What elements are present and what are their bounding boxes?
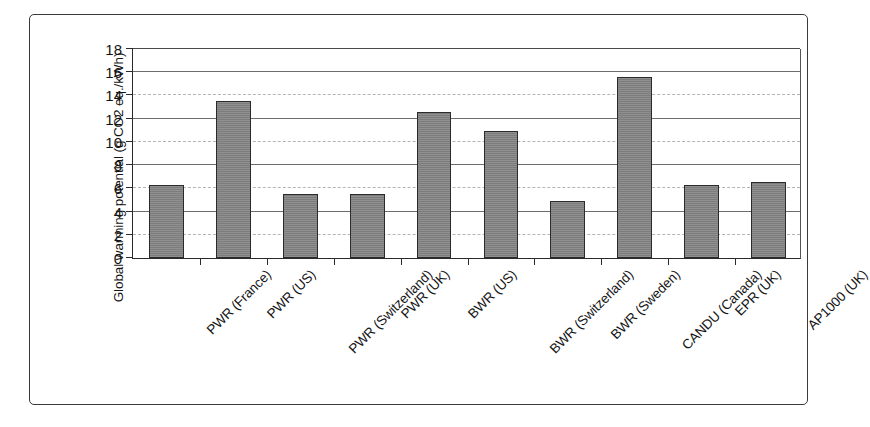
bar: [751, 182, 786, 258]
bar: [149, 185, 184, 259]
y-tick-label-10: 10: [105, 133, 122, 150]
y-tick-label-14: 14: [105, 87, 122, 104]
y-tick-12: [126, 118, 133, 119]
x-axis-labels: PWR (France)PWR (US)PWR (Switzerland)PWR…: [132, 259, 801, 409]
x-axis-label: BWR (Switzerland): [547, 267, 636, 356]
y-tick-label-18: 18: [105, 41, 122, 58]
y-tick-0: [126, 257, 133, 258]
bar-series: [133, 49, 800, 258]
bar: [617, 77, 652, 258]
bar: [283, 194, 318, 258]
y-tick-4: [126, 211, 133, 212]
y-tick-18: [126, 48, 133, 49]
bar: [216, 101, 251, 259]
y-tick-label-4: 4: [114, 203, 122, 220]
y-tick-label-2: 2: [114, 226, 122, 243]
y-tick-14: [126, 94, 133, 95]
y-tick-label-0: 0: [114, 250, 122, 267]
y-tick-label-16: 16: [105, 64, 122, 81]
x-axis-label: AP1000 (UK): [804, 267, 870, 333]
bar: [684, 185, 719, 259]
y-tick-label-6: 6: [114, 180, 122, 197]
bar: [484, 131, 519, 258]
x-axis-label: BWR (US): [465, 267, 519, 321]
y-tick-16: [126, 71, 133, 72]
x-axis-label: PWR (Switzerland): [346, 267, 435, 356]
figure-frame: Global warming potential (g CO2 eq./kWh)…: [29, 14, 808, 405]
bar: [417, 112, 452, 258]
y-tick-8: [126, 164, 133, 165]
y-tick-6: [126, 187, 133, 188]
y-tick-10: [126, 141, 133, 142]
y-tick-2: [126, 234, 133, 235]
bar: [350, 194, 385, 258]
y-tick-label-8: 8: [114, 157, 122, 174]
plot-area: 024681012141618: [132, 49, 801, 259]
y-tick-label-12: 12: [105, 110, 122, 127]
x-axis-label: PWR (France): [204, 267, 274, 337]
bar: [550, 201, 585, 258]
